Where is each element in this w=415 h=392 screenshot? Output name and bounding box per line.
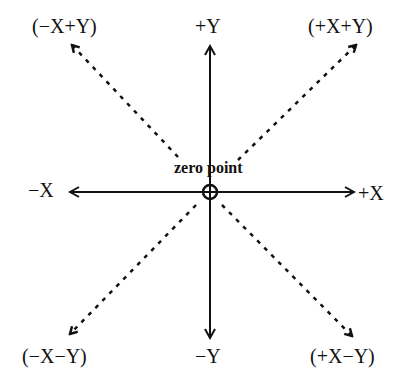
pos-x-neg-y-label: (+X−Y) (310, 346, 375, 366)
neg-x-neg-y-label: (−X−Y) (22, 346, 87, 366)
pos-y-label: +Y (195, 16, 221, 36)
zero-point-label: zero point (174, 160, 243, 176)
neg-x-pos-y-label: (−X+Y) (32, 16, 97, 36)
neg-x-label: −X (28, 180, 54, 200)
pos-x-label: +X (358, 183, 384, 203)
neg-x-pos-y-diagonal (72, 45, 178, 157)
pos-x-neg-y-diagonal (222, 205, 352, 336)
neg-y-label: −Y (195, 346, 221, 366)
origin-crosshair-icon (203, 185, 217, 199)
pos-x-pos-y-label: (+X+Y) (308, 16, 373, 36)
neg-x-neg-y-diagonal (70, 205, 196, 334)
axes-diagram (0, 0, 415, 392)
pos-x-pos-y-diagonal (238, 45, 356, 160)
